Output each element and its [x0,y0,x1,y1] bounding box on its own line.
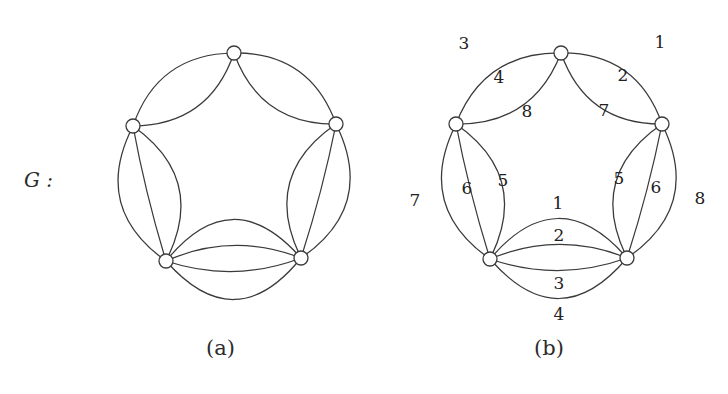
graph-vertex-lower-left [159,254,173,268]
graph-vertex-lower-right [620,251,634,265]
edge-label: 6 [651,179,662,196]
edge-label: 3 [459,35,470,52]
graph-vertex-lower-right [294,251,308,265]
graph-name-label: G : [24,168,53,192]
edge-label: 5 [614,170,625,187]
edge-label: 2 [554,227,565,244]
edge-label: 6 [462,180,473,197]
edge-label: 8 [695,190,706,207]
graph-vertex-lower-left [483,252,497,266]
edge-label: 4 [494,69,505,86]
graph-edge [133,126,166,261]
graph-edge [490,244,627,259]
figure-container: G : 3142877655681234 (a) (b) [0,0,728,394]
graph-edge [118,126,166,261]
edge-label: 1 [655,34,666,51]
graph-edge [166,245,301,261]
graph-edge [133,126,181,261]
caption-a: (a) [206,336,235,360]
graph-vertex-top [554,46,568,60]
graph-edge [287,124,336,258]
edge-label: 4 [554,306,565,323]
graph-vertex-upper-left [126,119,140,133]
panel-a-edges [118,53,350,300]
edge-label: 2 [618,67,629,84]
edge-label: 8 [522,103,533,120]
edge-label: 5 [498,172,509,189]
graph-edge [490,258,627,271]
panel-b-edges [441,53,676,299]
multigraph-drawing [0,0,728,394]
graph-edge [301,124,336,258]
caption-b: (b) [534,336,564,360]
graph-vertex-upper-right [329,117,343,131]
graph-vertex-upper-left [449,117,463,131]
edge-label: 7 [599,102,610,119]
edge-label: 1 [553,195,564,212]
graph-edge [301,124,350,258]
graph-edge [166,258,301,272]
graph-vertex-upper-right [655,117,669,131]
edge-label: 3 [554,275,565,292]
graph-vertex-top [227,46,241,60]
edge-label: 7 [410,192,421,209]
graph-edge [166,219,301,261]
